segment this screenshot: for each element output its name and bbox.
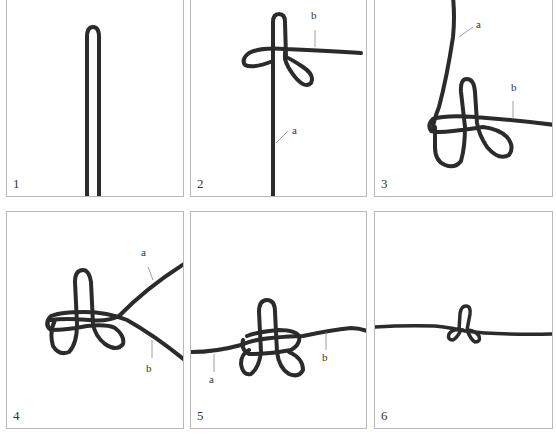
label-a: a [141,246,146,258]
cord-illustration [375,0,553,197]
label-b: b [311,9,317,21]
step-number: 5 [197,408,204,424]
label-a: a [209,373,214,385]
step-number: 1 [13,176,20,192]
cord-illustration [191,212,367,429]
step-number: 2 [197,176,204,192]
label-b: b [322,351,328,363]
label-a: a [292,124,297,136]
label-b: b [146,362,152,374]
step-panel-3: a b 3 [374,0,553,197]
cord-illustration [191,0,367,197]
step-panel-5: b a 5 [190,211,367,429]
cord-illustration [7,212,184,429]
step-number: 6 [381,408,388,424]
cord-illustration [375,212,553,429]
step-panel-1: 1 [6,0,184,197]
step-panel-2: b a 2 [190,0,367,197]
step-number: 3 [381,176,388,192]
label-b: b [511,81,517,93]
step-panel-4: a b 4 [6,211,184,429]
label-a: a [476,18,481,30]
step-number: 4 [13,408,20,424]
step-panel-6: 6 [374,211,553,429]
cord-illustration [7,0,184,197]
